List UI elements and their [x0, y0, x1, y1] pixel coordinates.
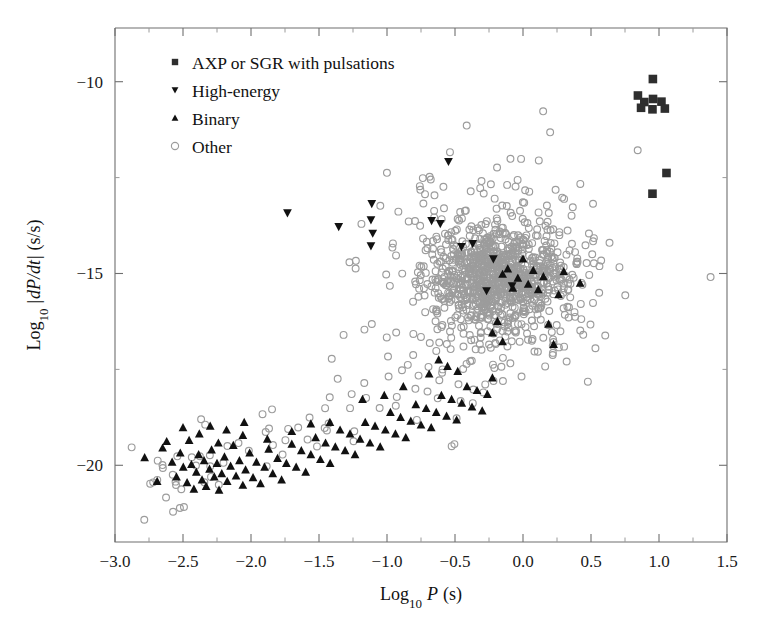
- y-axis-title[interactable]: Log10|dP/dt|(s/s): [24, 219, 51, 350]
- x-tick-label[interactable]: −2.5: [168, 552, 199, 571]
- legend-item-circle-open[interactable]: Other: [171, 137, 232, 157]
- legend-item-triangle-up[interactable]: Binary: [172, 109, 240, 129]
- legend-item-triangle-down[interactable]: High-energy: [172, 81, 281, 101]
- pulsar-ppdot-scatter-plot: −3.0−2.5−2.0−1.5−1.0−0.50.00.51.01.5−10−…: [0, 0, 761, 627]
- legend-triangle-down-icon: [172, 87, 179, 93]
- y-tick-label[interactable]: −10: [76, 73, 103, 92]
- x-tick-label[interactable]: −1.0: [372, 552, 403, 571]
- plot-canvas: −3.0−2.5−2.0−1.5−1.0−0.50.00.51.01.5−10−…: [0, 0, 761, 627]
- x-tick-label[interactable]: 0.5: [580, 552, 601, 571]
- x-tick-label[interactable]: 1.0: [648, 552, 669, 571]
- x-tick-label[interactable]: −0.5: [440, 552, 471, 571]
- legend-label: AXP or SGR with pulsations: [192, 53, 395, 73]
- legend-triangle-up-icon: [172, 114, 179, 120]
- x-tick-label[interactable]: −2.0: [236, 552, 267, 571]
- x-tick-label[interactable]: −1.5: [304, 552, 335, 571]
- legend-item-square[interactable]: AXP or SGR with pulsations: [172, 53, 395, 73]
- legend-label: Other: [192, 137, 232, 157]
- legend-label: Binary: [192, 109, 240, 129]
- series-axp-sgr[interactable]: [634, 75, 671, 198]
- x-tick-label[interactable]: −3.0: [100, 552, 131, 571]
- x-tick-label[interactable]: 0.0: [512, 552, 533, 571]
- legend-square-icon: [172, 59, 178, 65]
- x-axis-title[interactable]: Log10P(s): [380, 584, 462, 611]
- legend-label: High-energy: [192, 81, 280, 101]
- x-tick-label[interactable]: 1.5: [716, 552, 737, 571]
- y-tick-label[interactable]: −15: [76, 264, 103, 283]
- y-tick-label[interactable]: −20: [76, 456, 103, 475]
- legend-circle-open-icon: [171, 142, 178, 149]
